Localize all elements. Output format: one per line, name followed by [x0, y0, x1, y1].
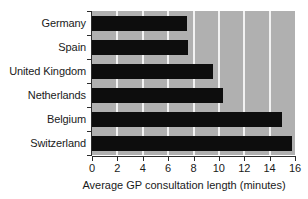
y-axis-label-5: Switzerland	[0, 137, 86, 149]
x-tick-2	[117, 156, 118, 161]
gridline-x-8	[193, 11, 195, 155]
y-axis-category-labels: Germany Spain United Kingdom Netherlands…	[0, 11, 86, 155]
gridline-x-12	[243, 11, 245, 155]
x-tick-16	[295, 156, 296, 161]
y-tick-0	[87, 11, 92, 12]
y-tick-5	[87, 131, 92, 132]
y-axis-label-1: Spain	[0, 41, 86, 53]
plot-area	[92, 11, 295, 155]
y-axis-label-4: Belgium	[0, 113, 86, 125]
y-tick-6	[87, 155, 92, 156]
y-tick-3	[87, 83, 92, 84]
bar-1	[92, 40, 188, 55]
x-tick-0	[92, 156, 93, 161]
x-tick-14	[270, 156, 271, 161]
x-tick-label-4: 4	[131, 162, 155, 174]
x-tick-10	[219, 156, 220, 161]
x-tick-4	[143, 156, 144, 161]
y-axis-label-2: United Kingdom	[0, 65, 86, 77]
y-axis-label-0: Germany	[0, 17, 86, 29]
y-tick-4	[87, 107, 92, 108]
gridline-x-6	[167, 11, 169, 155]
x-tick-12	[244, 156, 245, 161]
x-tick-label-6: 6	[156, 162, 180, 174]
x-tick-label-8: 8	[182, 162, 206, 174]
x-tick-8	[194, 156, 195, 161]
bar-5	[92, 136, 292, 151]
bar-4	[92, 112, 282, 127]
x-tick-label-0: 0	[80, 162, 104, 174]
y-axis-label-3: Netherlands	[0, 89, 86, 101]
bar-3	[92, 88, 223, 103]
gridline-x-2	[116, 11, 118, 155]
y-tick-1	[87, 35, 92, 36]
x-tick-label-14: 14	[258, 162, 282, 174]
x-tick-label-10: 10	[207, 162, 231, 174]
gridline-x-10	[218, 11, 220, 155]
x-axis-title: Average GP consultation length (minutes)	[60, 179, 308, 192]
x-tick-label-12: 12	[232, 162, 256, 174]
bar-2	[92, 64, 213, 79]
gridline-x-14	[269, 11, 271, 155]
gridline-x-4	[142, 11, 144, 155]
bar-chart: Germany Spain United Kingdom Netherlands…	[0, 0, 308, 199]
bar-0	[92, 16, 187, 31]
x-tick-6	[168, 156, 169, 161]
y-tick-2	[87, 59, 92, 60]
x-tick-label-16: 16	[283, 162, 307, 174]
x-tick-label-2: 2	[105, 162, 129, 174]
